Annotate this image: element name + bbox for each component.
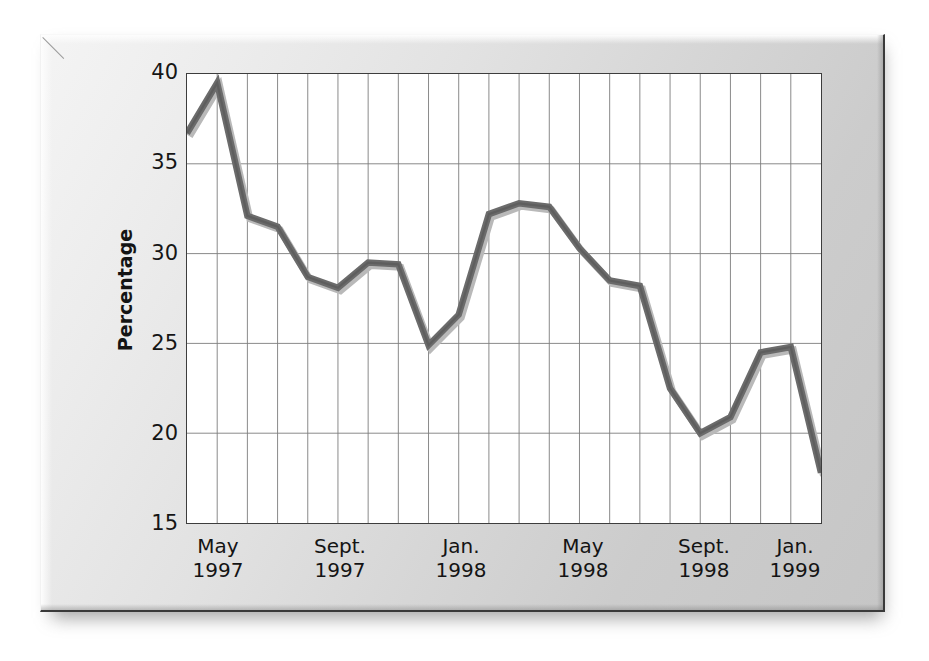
y-tick-label: 40 <box>132 62 178 83</box>
plot-area <box>186 73 822 524</box>
y-tick-label: 35 <box>132 152 178 173</box>
x-tick-year: 1997 <box>280 558 400 582</box>
card-inner-shade-right <box>877 35 883 610</box>
data-series-layer <box>187 83 821 476</box>
data-line-core <box>187 83 821 473</box>
x-tick-label: Sept. 1997 <box>280 534 400 583</box>
data-line <box>187 83 821 473</box>
x-tick-year: 1998 <box>401 558 521 582</box>
x-tick-label: Jan. 1999 <box>735 534 855 583</box>
x-tick-year: 1999 <box>735 558 855 582</box>
x-axis-tick-labels: May 1997 Sept. 1997 Jan. 1998 May 1998 S… <box>0 534 929 604</box>
chart-screenshot: Percentage 40 35 30 25 20 15 May 1997 Se… <box>0 0 929 661</box>
x-tick-month: May <box>158 534 278 558</box>
horizontal-gridlines <box>187 164 821 433</box>
x-tick-label: Jan. 1998 <box>401 534 521 583</box>
y-tick-label: 15 <box>132 513 178 534</box>
card-bevel-left-highlight <box>41 35 52 610</box>
x-tick-month: May <box>523 534 643 558</box>
x-tick-year: 1998 <box>523 558 643 582</box>
y-tick-label: 30 <box>132 243 178 264</box>
x-tick-month: Jan. <box>401 534 521 558</box>
vertical-gridlines <box>217 74 791 523</box>
y-tick-label: 25 <box>132 333 178 354</box>
x-tick-label: May 1997 <box>158 534 278 583</box>
x-tick-label: May 1998 <box>523 534 643 583</box>
x-tick-month: Sept. <box>280 534 400 558</box>
line-chart-svg <box>187 74 821 523</box>
card-bevel-corner-notch <box>43 37 69 63</box>
x-tick-year: 1997 <box>158 558 278 582</box>
y-tick-label: 20 <box>132 423 178 444</box>
x-tick-month: Jan. <box>735 534 855 558</box>
